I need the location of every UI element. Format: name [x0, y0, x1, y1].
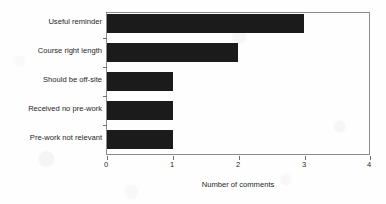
category-label: Received no pre-work — [2, 104, 102, 113]
category-label: Course right length — [2, 46, 102, 55]
y-axis-tick — [103, 38, 107, 39]
category-label: Should be off-site — [2, 75, 102, 84]
category-label: Useful reminder — [2, 17, 102, 26]
category-axis-labels: Useful reminder Course right length Shou… — [0, 12, 102, 155]
plot-area — [106, 12, 370, 155]
bar-received-no-pre-work — [107, 101, 173, 120]
bar-course-right-length — [107, 43, 238, 62]
y-axis-tick — [103, 125, 107, 126]
bar-pre-work-not-relevant — [107, 130, 173, 149]
y-axis-tick — [103, 67, 107, 68]
x-axis-tick-labels: 0 1 2 3 4 — [106, 160, 370, 172]
bar-chart-figure: Useful reminder Course right length Shou… — [0, 0, 386, 204]
x-axis-tick-label: 3 — [289, 160, 319, 169]
x-axis-tick-label: 0 — [91, 160, 121, 169]
x-axis-tick-label: 2 — [223, 160, 253, 169]
category-label: Pre-work not relevant — [2, 133, 102, 142]
x-axis-tick-label: 1 — [157, 160, 187, 169]
bar-useful-reminder — [107, 14, 304, 33]
y-axis-tick — [103, 96, 107, 97]
x-axis-title: Number of comments — [106, 180, 370, 190]
x-axis-tick-label: 4 — [354, 160, 384, 169]
bar-should-be-off-site — [107, 72, 173, 91]
